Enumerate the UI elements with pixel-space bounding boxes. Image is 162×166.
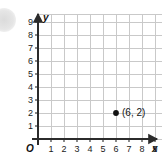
x-tick-label: 4 xyxy=(84,145,96,154)
gridlines-group xyxy=(38,14,162,139)
y-tick-label: 7 xyxy=(22,44,33,53)
y-tick-label: 1 xyxy=(22,122,33,131)
y-tick-label: 6 xyxy=(22,57,33,66)
y-tick-label: 3 xyxy=(22,96,33,105)
x-tick-label: 1 xyxy=(45,145,57,154)
y-tick-label: 2 xyxy=(22,109,33,118)
y-tick-label: 8 xyxy=(22,31,33,40)
point-coordinate-label: (6, 2) xyxy=(122,108,145,118)
data-points-group xyxy=(113,110,119,116)
x-axis-name-label: x xyxy=(152,144,158,154)
y-tick-label: 5 xyxy=(22,70,33,79)
x-tick-label: 6 xyxy=(110,145,122,154)
y-axis-name-label: y xyxy=(43,13,49,23)
coordinate-plane-figure: 123456789 123456789 (6, 2) O x y xyxy=(0,0,162,166)
y-tick-label: 9 xyxy=(22,18,33,27)
x-tick-label: 7 xyxy=(123,145,135,154)
x-tick-label: 8 xyxy=(136,145,148,154)
x-tick-label: 3 xyxy=(71,145,83,154)
x-tick-label: 2 xyxy=(58,145,70,154)
y-tick-label: 4 xyxy=(22,83,33,92)
origin-label: O xyxy=(26,144,34,154)
x-tick-label: 5 xyxy=(97,145,109,154)
axis-ticks-group xyxy=(35,22,155,142)
